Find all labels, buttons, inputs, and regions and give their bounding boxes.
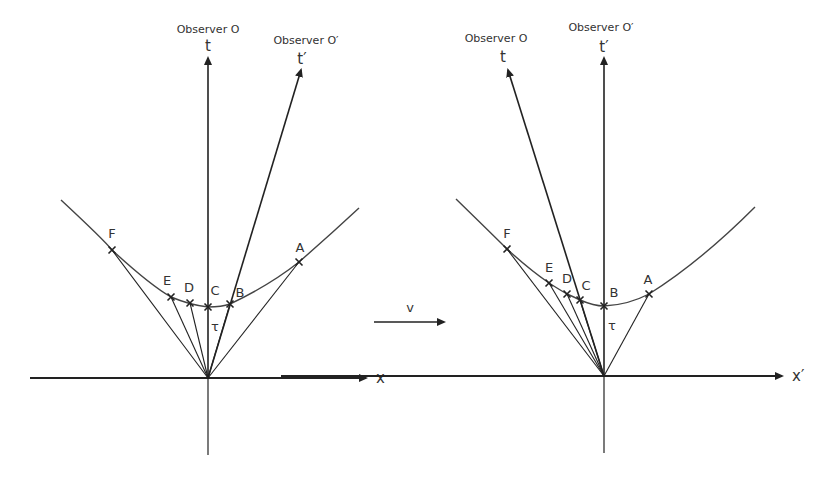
worldline-A (604, 294, 649, 376)
event-label-A: A (644, 272, 653, 287)
observer-O-label: Observer O (177, 23, 240, 36)
worldline-E (171, 297, 208, 378)
event-label-F: F (503, 226, 510, 241)
t-prime-axis-label: t′ (297, 50, 307, 68)
event-label-D: D (562, 271, 572, 286)
t-axis-label: t (500, 48, 506, 66)
proper-time-tau-label: τ (608, 318, 616, 333)
t-axis-label: t (205, 37, 211, 55)
event-marker-F (504, 246, 511, 253)
event-marker-E (168, 294, 175, 301)
event-label-B: B (610, 285, 619, 300)
observer-O-prime-label: Observer O′ (273, 34, 339, 47)
event-marker-F (109, 247, 116, 254)
diagram-frame-O-prime: x′tObserver Ot′Observer O′FEDCBAτ (281, 21, 805, 453)
boost-velocity-arrow: v (374, 300, 444, 322)
x-axis-label: x (376, 369, 385, 387)
event-label-E: E (163, 273, 171, 288)
x-axis-label: x′ (792, 367, 805, 385)
event-label-E: E (545, 260, 553, 275)
velocity-label: v (406, 300, 414, 315)
observer-O-prime-label: Observer O′ (568, 21, 634, 34)
event-marker-E (546, 280, 553, 287)
worldline-C (580, 300, 604, 376)
event-label-C: C (581, 278, 590, 293)
invariant-hyperbola (456, 199, 755, 306)
worldline-F (507, 249, 604, 376)
event-marker-A (296, 259, 303, 266)
t-prime-axis-label: t′ (599, 38, 609, 56)
event-marker-D (564, 291, 571, 298)
event-label-D: D (184, 280, 194, 295)
worldline-F (112, 250, 208, 378)
spacetime-diagram-canvas: xtObserver Ot′Observer O′FEDCBAτ v x′tOb… (0, 0, 820, 482)
observer-O-label: Observer O (465, 32, 528, 45)
event-marker-A (646, 291, 653, 298)
worldline-A (208, 262, 299, 378)
diagram-frame-O: xtObserver Ot′Observer O′FEDCBAτ (30, 23, 385, 455)
proper-time-tau-label: τ (211, 319, 219, 334)
event-label-B: B (236, 285, 245, 300)
event-label-C: C (210, 283, 219, 298)
event-label-A: A (296, 240, 305, 255)
event-label-F: F (108, 226, 115, 241)
worldline-B (208, 304, 230, 378)
